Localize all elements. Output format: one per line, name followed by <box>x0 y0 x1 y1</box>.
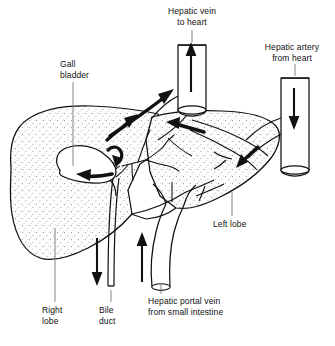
label-hepatic-artery: Hepatic artery from heart <box>249 42 335 63</box>
label-hepatic-portal-vein: Hepatic portal vein from small intestine <box>148 296 266 317</box>
arrow-portal-vein-in <box>137 232 148 282</box>
label-gall-bladder: Gall bladder <box>60 59 120 80</box>
label-left-lobe: Left lobe <box>213 219 273 230</box>
figure-canvas: Hepatic vein to heart Hepatic artery fro… <box>0 0 335 346</box>
label-bile-duct: Bile duct <box>99 305 139 326</box>
left-lobe <box>131 111 279 219</box>
label-right-lobe: Right lobe <box>42 305 88 326</box>
label-hepatic-vein: Hepatic vein to heart <box>152 6 232 27</box>
